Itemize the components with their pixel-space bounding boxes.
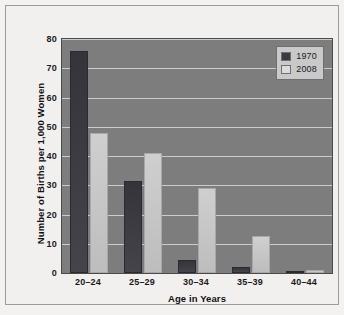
legend-label-2008: 2008	[296, 64, 317, 75]
bar-group	[224, 39, 278, 273]
bar-1970-40–44	[286, 271, 304, 273]
y-tick-label: 80	[11, 34, 57, 44]
x-tick-label: 20–24	[61, 277, 115, 287]
bar-2008-40–44	[306, 270, 324, 273]
y-axis-title: Number of Births per 1,000 Women	[35, 59, 46, 269]
bar-group	[62, 39, 116, 273]
x-axis-title: Age in Years	[61, 293, 333, 304]
y-tick-label: 30	[11, 180, 57, 190]
x-tick-label: 25–29	[115, 277, 169, 287]
bar-1970-30–34	[178, 260, 196, 273]
y-tick-label: 20	[11, 210, 57, 220]
bar-2008-30–34	[198, 188, 216, 273]
x-tick-label: 30–34	[169, 277, 223, 287]
bar-group	[116, 39, 170, 273]
bar-2008-35–39	[252, 236, 270, 273]
legend-swatch-1970	[281, 52, 291, 61]
bar-1970-20–24	[70, 51, 88, 273]
legend-swatch-2008	[281, 65, 291, 74]
y-tick-label: 60	[11, 93, 57, 103]
y-tick-label: 40	[11, 151, 57, 161]
bar-2008-20–24	[90, 133, 108, 273]
x-tick-label: 35–39	[223, 277, 277, 287]
y-tick-label: 70	[11, 63, 57, 73]
legend-label-1970: 1970	[296, 51, 317, 62]
y-tick-label: 10	[11, 239, 57, 249]
x-tick-label: 40–44	[277, 277, 331, 287]
y-tick-label: 0	[11, 268, 57, 278]
y-tick-label: 50	[11, 122, 57, 132]
bar-2008-25–29	[144, 153, 162, 273]
y-axis: Number of Births per 1,000 Women 0102030…	[6, 38, 57, 274]
bar-1970-25–29	[124, 181, 142, 273]
bar-group	[170, 39, 224, 273]
plot-area: 1970 2008	[61, 38, 333, 274]
x-axis: 20–2425–2930–3435–3940–44	[61, 277, 333, 291]
figure-frame: Number of Births per 1,000 Women 0102030…	[5, 5, 339, 305]
figure: Number of Births per 1,000 Women 0102030…	[0, 0, 344, 315]
legend-item: 1970	[281, 50, 317, 63]
bar-1970-35–39	[232, 267, 250, 273]
legend-item: 2008	[281, 63, 317, 76]
legend: 1970 2008	[276, 46, 324, 80]
